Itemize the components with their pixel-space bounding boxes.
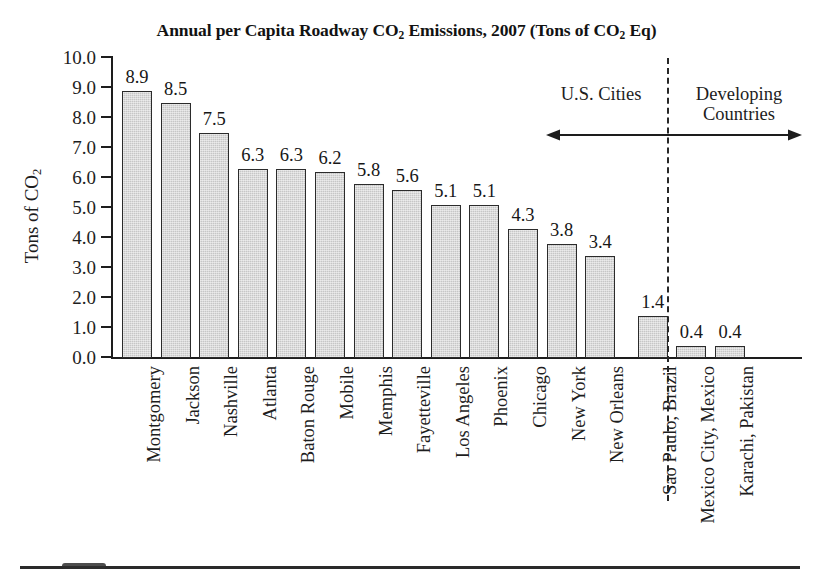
bar-group: 6.3 [276, 57, 306, 358]
x-axis-category-label: Phoenix [492, 366, 511, 427]
x-axis-category-label: New York [570, 366, 589, 441]
x-axis-category-label: Karachi, Pakistan [738, 366, 757, 497]
y-axis-title-sub: 2 [30, 169, 44, 175]
bar-group: 4.3 [508, 57, 538, 358]
bar [676, 346, 706, 358]
bar-value-label: 0.4 [700, 323, 760, 342]
x-axis-category-label: Atlanta [261, 366, 280, 420]
y-axis-tick-label: 2.0 [44, 288, 96, 307]
x-axis-category-label: Mobile [338, 366, 357, 419]
x-axis-category-label: Memphis [377, 366, 396, 436]
x-axis-category-label: Mexico City, Mexico [699, 366, 718, 524]
bar-value-label: 3.4 [570, 233, 630, 252]
y-axis-tick-label: 9.0 [44, 78, 96, 97]
annotation-developing-line2: Countries [676, 105, 802, 125]
bar [315, 172, 345, 358]
y-axis-tick [101, 266, 112, 268]
double-headed-arrow-icon [546, 127, 802, 143]
bar-group: 8.5 [161, 57, 191, 358]
y-axis-tick [101, 206, 112, 208]
bar [431, 205, 461, 358]
y-axis-title: Tons of CO2 [21, 121, 43, 311]
annotation-developing-countries: Developing Countries [676, 85, 802, 125]
bar [547, 244, 577, 358]
x-axis-category-label: Sao Paulo, Brazil [661, 366, 680, 495]
bar-group: 5.8 [354, 57, 384, 358]
bar [715, 346, 745, 358]
annotation-developing-line1: Developing [696, 84, 782, 104]
y-axis-tick-label: 5.0 [44, 198, 96, 217]
x-axis-category-label: Nashville [222, 366, 241, 437]
y-axis-tick-label: 4.0 [44, 228, 96, 247]
bar-group: 5.6 [392, 57, 422, 358]
bar-group: 6.2 [315, 57, 345, 358]
bar [199, 133, 229, 358]
bar-group: 5.1 [431, 57, 461, 358]
y-axis-tick [101, 56, 112, 58]
chart-title-sub-2: 2 [620, 29, 626, 41]
annotation-us-cities: U.S. Cities [540, 85, 662, 105]
y-axis-tick [101, 236, 112, 238]
bar [122, 91, 152, 358]
page-separator-rule [20, 566, 800, 569]
chart-title-part-b: Emissions, 2007 (Tons of CO [404, 20, 619, 40]
bar-value-label: 8.5 [146, 80, 206, 99]
x-axis-category-label: New Orleans [608, 366, 627, 463]
bar-value-label: 5.1 [454, 182, 514, 201]
x-axis-category-label: Baton Rouge [299, 366, 318, 463]
chart-title: Annual per Capita Roadway CO2 Emissions,… [0, 20, 813, 41]
bar [508, 229, 538, 358]
y-axis-tick [101, 296, 112, 298]
y-axis-tick-label: 10.0 [44, 48, 96, 67]
y-axis-tick [101, 116, 112, 118]
x-axis-category-label: Fayetteville [415, 366, 434, 453]
bar [585, 256, 615, 358]
y-axis-tick-label: 6.0 [44, 168, 96, 187]
x-axis-category-label: Los Angeles [454, 366, 473, 458]
chart-title-sub-1: 2 [399, 29, 405, 41]
y-axis-tick-label: 1.0 [44, 318, 96, 337]
y-axis-tick [101, 146, 112, 148]
bar [238, 169, 268, 358]
x-axis-category-label: Jackson [184, 366, 203, 425]
group-divider-dashed-line [667, 58, 669, 501]
bar-chart-figure: Annual per Capita Roadway CO2 Emissions,… [0, 0, 813, 576]
page-separator-artifact [62, 563, 106, 569]
y-axis-title-text: Tons of CO [21, 175, 42, 263]
y-axis-tick-label: 3.0 [44, 258, 96, 277]
y-axis-tick-label: 0.0 [44, 348, 96, 367]
bar [354, 184, 384, 358]
bar [469, 205, 499, 358]
y-axis-tick [101, 86, 112, 88]
y-axis-tick-label: 8.0 [44, 108, 96, 127]
bar-group: 7.5 [199, 57, 229, 358]
chart-title-part-c: Eq) [625, 20, 656, 40]
bar-value-label: 1.4 [623, 293, 683, 312]
y-axis-tick-label: 7.0 [44, 138, 96, 157]
y-axis-tick [101, 326, 112, 328]
bar [161, 103, 191, 358]
y-axis-tick [101, 176, 112, 178]
bar [276, 169, 306, 358]
x-axis-category-label: Montgomery [145, 366, 164, 463]
bar-group: 8.9 [122, 57, 152, 358]
bar-value-label: 7.5 [184, 110, 244, 129]
bar [392, 190, 422, 358]
bar-group: 6.3 [238, 57, 268, 358]
y-axis-tick [101, 356, 112, 358]
y-axis-tick-labels: 10.09.08.07.06.05.04.03.02.01.00.0 [40, 0, 96, 576]
x-axis-category-label: Chicago [531, 366, 550, 428]
chart-title-part-a: Annual per Capita Roadway CO [157, 20, 399, 40]
